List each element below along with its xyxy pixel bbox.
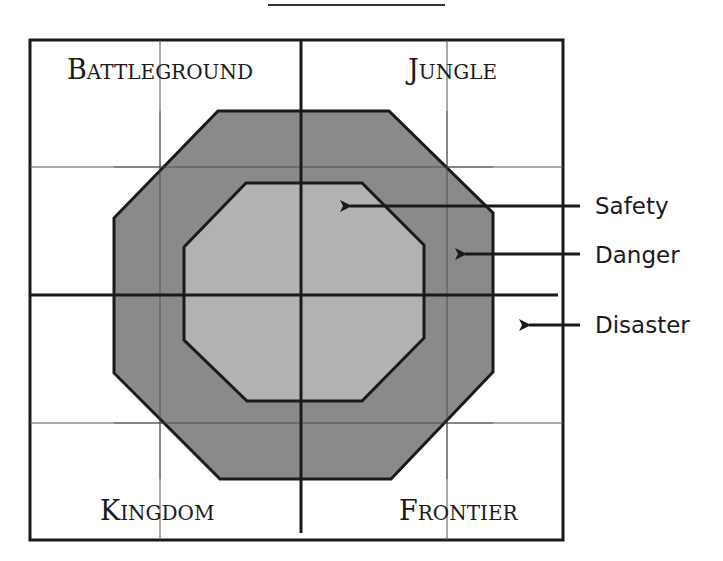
label-disaster: Disaster: [595, 312, 690, 338]
label-danger: Danger: [595, 242, 680, 268]
zone-diagram: BATTLEGROUND JUNGLE KINGDOM FRONTIER Saf…: [0, 0, 723, 561]
safety-zone-octagon: [184, 183, 424, 401]
label-safety: Safety: [595, 193, 669, 219]
